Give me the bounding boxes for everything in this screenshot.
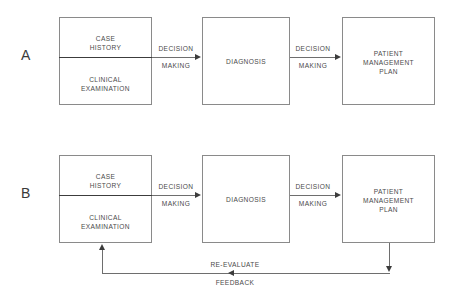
edge-label-decision-1-a: DECISION	[152, 45, 200, 53]
node-case-history-clinical-examination-a: CASE HISTORY CLINICAL EXAMINATION	[59, 17, 152, 105]
edge-label-decision-2-a: DECISION	[289, 45, 337, 53]
node-label-case-history-a: CASE HISTORY	[60, 34, 151, 52]
node-label-patient-management-plan-b: PATIENT MANAGEMENT PLAN	[343, 187, 434, 214]
edge-arrowhead-decision-making-1-b	[195, 192, 201, 198]
feedback-line-vertical-right-b	[389, 243, 390, 268]
edge-label-making-2-a: MAKING	[289, 62, 337, 70]
edge-arrowhead-decision-making-2-b	[335, 192, 341, 198]
edge-arrowhead-decision-making-1-a	[195, 54, 201, 60]
edge-label-making-1-a: MAKING	[152, 62, 200, 70]
panel-label-a: A	[21, 48, 31, 62]
edge-label-decision-2-b: DECISION	[289, 183, 337, 191]
edge-line-decision-making-2-a	[290, 57, 336, 58]
feedback-line-horizontal-b	[102, 273, 390, 274]
edge-line-decision-making-1-b	[152, 195, 196, 196]
feedback-arrowhead-down-b	[386, 266, 392, 272]
feedback-label-re-evaluate-b: RE-EVALUATE	[185, 261, 285, 269]
node-patient-management-plan-a: PATIENT MANAGEMENT PLAN	[342, 17, 435, 105]
feedback-line-vertical-left-b	[102, 250, 103, 274]
feedback-arrowhead-up-b	[99, 244, 105, 250]
node-divider-b	[59, 195, 152, 196]
edge-line-decision-making-1-a	[152, 57, 196, 58]
figure-canvas: A CASE HISTORY CLINICAL EXAMINATION DECI…	[0, 0, 451, 299]
node-case-history-clinical-examination-b: CASE HISTORY CLINICAL EXAMINATION	[59, 155, 152, 243]
edge-label-making-1-b: MAKING	[152, 200, 200, 208]
node-label-clinical-examination-b: CLINICAL EXAMINATION	[60, 213, 151, 231]
node-divider-a	[59, 57, 152, 58]
feedback-label-feedback-b: FEEDBACK	[185, 279, 285, 287]
edge-line-decision-making-2-b	[290, 195, 336, 196]
node-label-clinical-examination-a: CLINICAL EXAMINATION	[60, 75, 151, 93]
panel-label-b: B	[21, 186, 31, 200]
node-diagnosis-a: DIAGNOSIS	[202, 17, 290, 105]
node-label-patient-management-plan-a: PATIENT MANAGEMENT PLAN	[343, 49, 434, 76]
edge-arrowhead-decision-making-2-a	[335, 54, 341, 60]
node-patient-management-plan-b: PATIENT MANAGEMENT PLAN	[342, 155, 435, 243]
edge-label-decision-1-b: DECISION	[152, 183, 200, 191]
node-label-diagnosis-b: DIAGNOSIS	[203, 195, 289, 204]
edge-label-making-2-b: MAKING	[289, 200, 337, 208]
node-diagnosis-b: DIAGNOSIS	[202, 155, 290, 243]
node-label-diagnosis-a: DIAGNOSIS	[203, 57, 289, 66]
feedback-arrowhead-left-b	[228, 270, 234, 276]
node-label-case-history-b: CASE HISTORY	[60, 172, 151, 190]
